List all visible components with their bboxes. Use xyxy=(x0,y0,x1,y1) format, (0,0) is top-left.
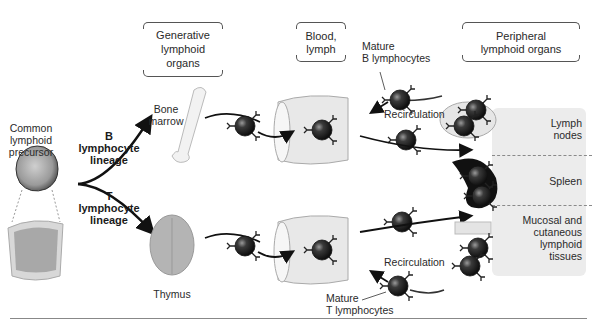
precursor-label: Common lymphoid precursor xyxy=(2,122,60,158)
spleen-icon xyxy=(452,158,497,211)
thymus-label: Thymus xyxy=(150,288,194,300)
mucosal-tissue-icon xyxy=(452,222,493,281)
bottom-rule xyxy=(10,318,587,319)
mucosal-tissues-label: Mucosal and cutaneous lymphoid tissues xyxy=(506,214,582,262)
b-lineage-label: B lymphocyte lineage xyxy=(76,130,142,166)
thymus-icon xyxy=(150,215,194,275)
bone-section-icon xyxy=(8,221,63,280)
t-lineage-label: T lymphocyte lineage xyxy=(76,190,142,226)
lymph-node-icon xyxy=(440,95,496,141)
mature-b-lymphocytes-label: Mature B lymphocytes xyxy=(362,40,452,64)
recirculation-top-label: Recirculation xyxy=(384,108,445,120)
mature-t-lymphocytes-label: Mature T lymphocytes xyxy=(326,292,416,316)
spleen-label: Spleen xyxy=(520,175,582,187)
recirculation-bottom-label: Recirculation xyxy=(384,256,445,268)
lymph-nodes-label: Lymph nodes xyxy=(520,117,582,141)
bone-marrow-label: Bone marrow xyxy=(144,103,188,127)
